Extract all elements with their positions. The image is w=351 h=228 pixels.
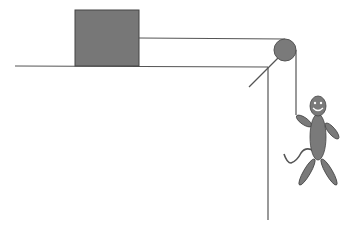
figure-right-leg	[318, 157, 339, 186]
block	[75, 10, 139, 66]
figure-head	[310, 96, 326, 116]
table-surface	[15, 66, 268, 67]
pulley	[274, 39, 296, 61]
figure-left-leg	[296, 157, 317, 186]
pulley-diagram	[0, 0, 351, 228]
hanging-figure	[284, 96, 341, 187]
figure-left-eye	[314, 102, 316, 104]
figure-body	[310, 114, 326, 160]
figure-tail	[284, 149, 314, 163]
string-horizontal	[139, 38, 285, 39]
figure-right-eye	[320, 102, 322, 104]
